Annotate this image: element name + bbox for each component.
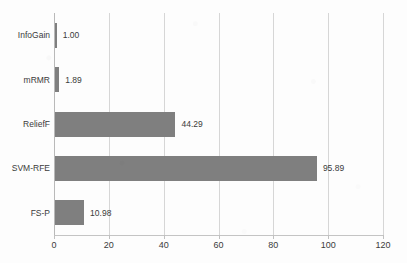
gridline-60 (219, 13, 220, 235)
bar-value-label-svm-rfe: 95.89 (323, 164, 344, 173)
tick-mark-60 (219, 235, 220, 239)
bar-value-label-infogain: 1.00 (63, 31, 80, 40)
x-tick-label: 120 (375, 241, 390, 250)
bar-chart: 1.001.8944.2995.8910.98 020406080100120 … (0, 0, 407, 263)
category-label-fs-p: FS-P (0, 209, 50, 218)
x-tick-label: 0 (51, 241, 56, 250)
category-axis-labels: InfoGainmRMRReliefFSVM-RFEFS-P (0, 13, 50, 235)
gridline-100 (328, 13, 329, 235)
category-label-infogain: InfoGain (0, 31, 50, 40)
tick-mark-40 (164, 235, 165, 239)
tick-mark-80 (273, 235, 274, 239)
category-label-relieff: ReliefF (0, 120, 50, 129)
tick-mark-100 (328, 235, 329, 239)
category-label-svm-rfe: SVM-RFE (0, 164, 50, 173)
tick-mark-20 (109, 235, 110, 239)
bar-relieff[interactable] (54, 112, 175, 137)
y-axis-line (54, 13, 55, 235)
bar-value-label-relieff: 44.29 (181, 120, 202, 129)
category-label-mrmr: mRMR (0, 76, 50, 85)
gridline-120 (383, 13, 384, 235)
plot-area: 1.001.8944.2995.8910.98 (54, 13, 383, 235)
x-tick-label: 100 (321, 241, 336, 250)
tick-mark-120 (383, 235, 384, 239)
bar-value-label-mrmr: 1.89 (65, 76, 82, 85)
bar-fs-p[interactable] (54, 200, 84, 225)
x-tick-label: 60 (213, 241, 223, 250)
x-tick-label: 40 (159, 241, 169, 250)
x-tick-label: 80 (268, 241, 278, 250)
bar-value-label-fs-p: 10.98 (90, 209, 111, 218)
gridline-80 (273, 13, 274, 235)
x-tick-label: 20 (104, 241, 114, 250)
tick-mark-0 (54, 235, 55, 239)
bar-svm-rfe[interactable] (54, 156, 317, 181)
